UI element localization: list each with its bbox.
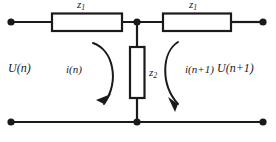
series-resistor-left: [52, 14, 122, 32]
right-current-label: i(n+1): [185, 64, 214, 75]
input-top-terminal-dot: [7, 18, 14, 25]
left-current-label: i(n): [66, 64, 82, 75]
output-top-terminal-dot: [259, 18, 266, 25]
series-resistor-right-label: z1: [189, 0, 197, 12]
shunt-resistor-label: z2: [149, 67, 157, 80]
right-mesh-current-arrow: [165, 42, 178, 112]
bottom-center-junction-dot: [133, 118, 140, 125]
top-center-junction-dot: [133, 18, 140, 25]
output-voltage-label: U(n+1): [217, 62, 254, 74]
output-bottom-terminal-dot: [259, 118, 266, 125]
left-mesh-current-arrow: [93, 43, 113, 104]
input-bottom-terminal-dot: [7, 118, 14, 125]
shunt-resistor-middle: [130, 47, 145, 98]
series-resistor-right: [163, 14, 231, 32]
circuit-diagram: z1 z1 z2 U(n) U(n+1) i(n) i(n+1): [0, 0, 276, 142]
input-voltage-label: U(n): [8, 62, 31, 74]
series-resistor-left-label: z1: [77, 0, 85, 12]
